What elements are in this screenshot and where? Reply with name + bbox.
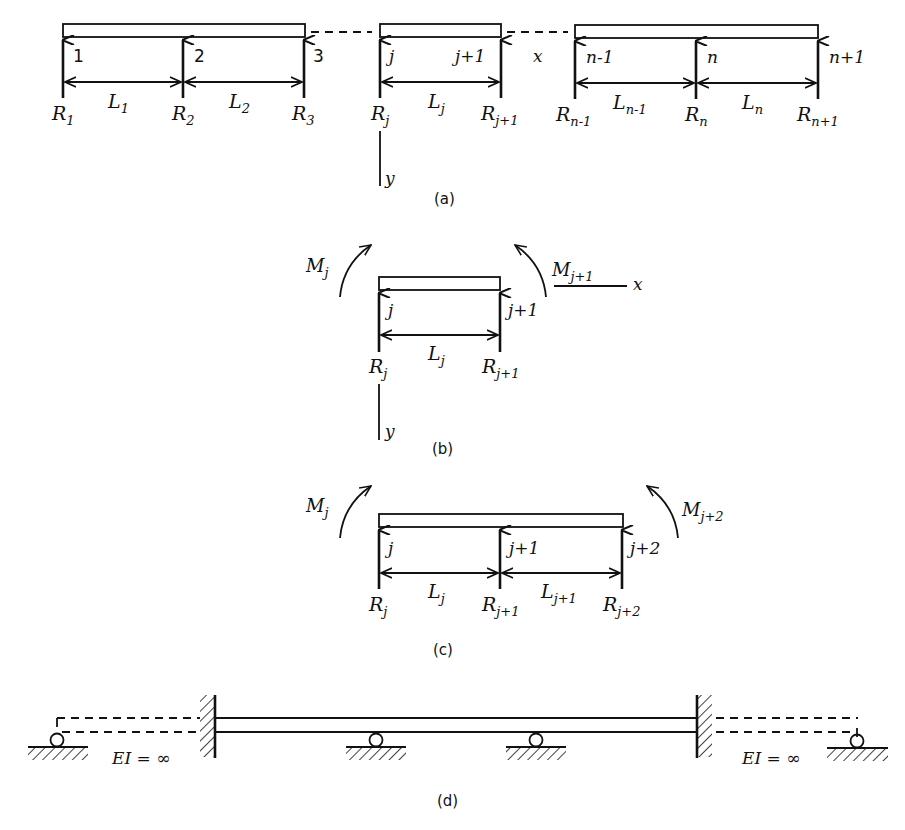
panel-b: Mj Mj+1 x j j+1 Lj Rj Rj+1 y (b): [305, 245, 643, 458]
moment-arrow-right: [647, 486, 678, 538]
roller-support: [28, 734, 88, 761]
fixed-wall-left: [200, 695, 214, 757]
span-label: Ln-1: [612, 91, 647, 117]
span-label: Lj+1: [540, 580, 577, 606]
panel-caption: (d): [437, 792, 458, 810]
span-label: Lj: [427, 90, 445, 116]
moment-arrow-right: [515, 245, 546, 297]
moment-label: Mj: [305, 495, 328, 520]
reaction-label: Rn: [684, 103, 708, 129]
fixed-wall-right: [698, 695, 712, 757]
panel-caption: (a): [434, 190, 455, 208]
x-axis-label: x: [533, 46, 543, 66]
reaction-label: Rn-1: [555, 103, 591, 129]
reaction-label: R1: [51, 102, 75, 128]
beam-segment-j: [380, 24, 501, 37]
beam-segment-j-j2: [379, 514, 623, 527]
node-label: 3: [313, 46, 324, 66]
node-label: j+1: [504, 300, 538, 320]
reaction-label: Rj+2: [602, 593, 641, 619]
reaction-label: Rn+1: [796, 103, 839, 129]
panel-d: EI = ∞ EI = ∞ (d): [28, 695, 888, 810]
reaction-label: Rj+1: [480, 102, 519, 128]
roller-support: [506, 734, 566, 761]
reaction-label: Rj+1: [481, 593, 520, 619]
node-label: n: [707, 47, 718, 67]
moment-label: Mj+2: [681, 499, 724, 524]
y-axis-label: y: [384, 168, 395, 188]
reaction-label: R3: [291, 102, 315, 128]
node-label: n+1: [829, 47, 865, 67]
rigidity-label-right: EI = ∞: [741, 748, 800, 768]
beam-segment-j: [379, 277, 500, 290]
y-axis-label: y: [384, 421, 395, 441]
span-label: Lj: [427, 342, 445, 368]
node-label: n-1: [586, 47, 614, 67]
x-axis-label: x: [633, 274, 643, 294]
node-label: j+1: [451, 46, 485, 66]
panel-caption: (b): [432, 440, 453, 458]
node-label: 1: [73, 46, 84, 66]
moment-arrow-left: [340, 486, 371, 538]
moment-label: Mj: [305, 255, 328, 280]
panel-caption: (c): [433, 641, 453, 659]
continuous-beam-diagram: 1 2 3 j j+1 n-1 n n+1 x L1 L2 Lj Ln-1 Ln…: [0, 0, 905, 830]
node-label: j: [384, 538, 394, 558]
roller-support: [346, 734, 406, 761]
panel-a: 1 2 3 j j+1 n-1 n n+1 x L1 L2 Lj Ln-1 Ln…: [51, 24, 865, 208]
span-label: Ln: [741, 91, 763, 117]
node-label: j+1: [505, 538, 539, 558]
moment-arrow-left: [340, 245, 371, 297]
reaction-label: Rj: [370, 102, 389, 128]
rigidity-label-left: EI = ∞: [111, 748, 170, 768]
span-label: L2: [228, 90, 250, 116]
span-label: Lj: [427, 580, 445, 606]
span-label: L1: [107, 90, 129, 116]
reaction-label: Rj: [368, 355, 387, 381]
node-label: j: [385, 46, 395, 66]
span-dimensions: [65, 82, 816, 83]
roller-support: [827, 735, 888, 762]
beam-segment-n: [575, 25, 818, 38]
node-label: 2: [194, 46, 205, 66]
panel-c: Mj Mj+2 j j+1 j+2 Lj Lj+1 Rj Rj+1 Rj+2 (…: [305, 486, 724, 659]
beam-segment-1-3: [63, 24, 305, 37]
reaction-label: R2: [171, 102, 195, 128]
reaction-label: Rj+1: [481, 355, 520, 381]
moment-label: Mj+1: [551, 259, 594, 284]
node-label: j: [384, 300, 394, 320]
reaction-label: Rj: [368, 593, 387, 619]
node-label: j+2: [626, 538, 660, 558]
